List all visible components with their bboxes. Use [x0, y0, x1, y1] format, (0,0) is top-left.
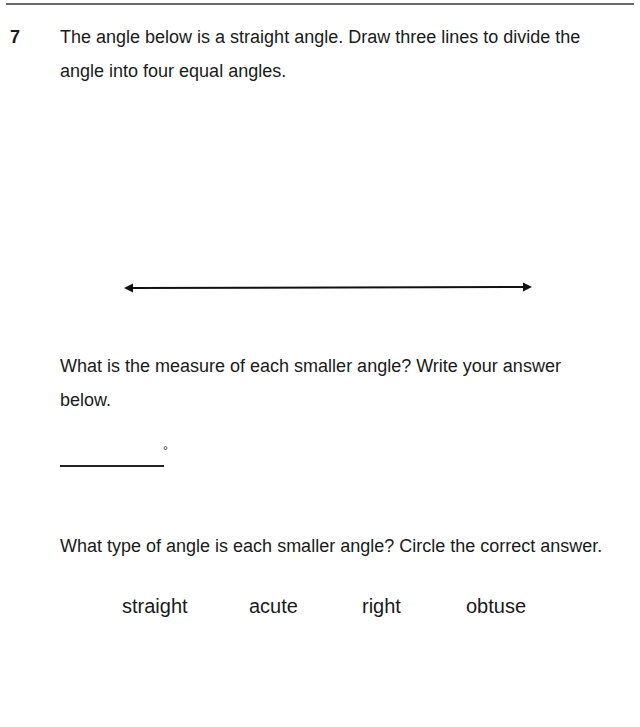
- choice-obtuse[interactable]: obtuse: [466, 595, 526, 618]
- question-prompt-line-2: angle into four equal angles.: [60, 54, 286, 88]
- part-a-prompt-line-1: What is the measure of each smaller angl…: [60, 349, 561, 383]
- degree-symbol: °: [163, 444, 168, 458]
- part-b-prompt: What type of angle is each smaller angle…: [60, 529, 602, 563]
- question-number: 7: [10, 27, 20, 48]
- choice-straight[interactable]: straight: [122, 595, 188, 618]
- choice-right[interactable]: right: [362, 595, 401, 618]
- choice-acute[interactable]: acute: [249, 595, 298, 618]
- header-rule: [6, 3, 634, 5]
- straight-angle-figure[interactable]: [124, 280, 532, 296]
- part-a-prompt-line-2: below.: [60, 383, 111, 417]
- question-prompt-line-1: The angle below is a straight angle. Dra…: [60, 20, 580, 54]
- answer-blank[interactable]: [60, 465, 164, 467]
- double-arrow-line-icon: [124, 280, 532, 296]
